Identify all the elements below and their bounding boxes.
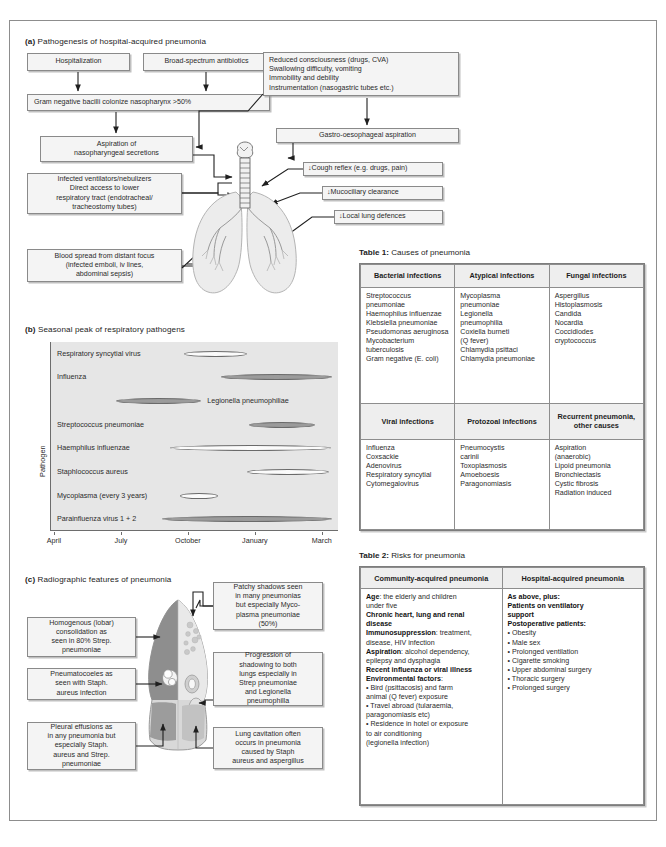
chart-x-tickmark (54, 532, 55, 535)
table1-header-atypical: Atypical infections (455, 265, 549, 288)
table2-community-line: Aspiration: alcohol dependency, (366, 648, 497, 657)
table2-cell-hospital: As above, plus:Patients on ventilatory s… (502, 589, 644, 805)
chart-bar (180, 493, 219, 499)
table1-header-recurrent: Recurrent pneumonia, other causes (549, 404, 643, 440)
table1-body-row-top: Streptococcus pneumoniae Haemophilus inf… (361, 287, 644, 403)
node-aspiration-risk-factors: Reduced consciousness (drugs, CVA) Swall… (263, 52, 459, 96)
panel-b-title: (b) Seasonal peak of respiratory pathoge… (25, 325, 185, 334)
table2-community-line: Recent influenza or viral illness (366, 666, 497, 675)
node-pleural-effusions: Pleural effusions as in any pneumonia bu… (27, 722, 136, 770)
table2-hospital-bullet: • Prolonged surgery (508, 684, 639, 693)
table2-hospital-bullet: • Obesity (508, 629, 639, 638)
table1-cell-protozoal: Pneumocystis carinii Toxoplasmosis Amoeb… (455, 439, 549, 529)
chart-category-label: Staphlococcus aureus (57, 467, 128, 476)
table2-hospital-bullet: • Cigarette smoking (508, 657, 639, 666)
table1-cell-bacterial: Streptococcus pneumoniae Haemophilus inf… (361, 287, 455, 403)
table1-causes-of-pneumonia: Bacterial infections Atypical infections… (359, 263, 645, 531)
chart-x-tick-label: April (32, 536, 76, 545)
table2-header-community: Community-acquired pneumonia (361, 568, 503, 589)
chart-x-tickmark (322, 532, 323, 535)
table1-header-row-top: Bacterial infections Atypical infections… (361, 265, 644, 288)
table2-body-row: Age: the elderly and childrenunder fiveC… (361, 589, 644, 805)
node-progression-shadowing: Progression of shadowing to both lungs e… (213, 652, 323, 706)
table2-community-line: Age: the elderly and children (366, 593, 497, 602)
table1-cell-atypical: Mycoplasma pneumoniae Legionella pneumop… (455, 287, 549, 403)
chart-category-label: Streptococcus pneumoniae (57, 420, 144, 429)
table2-community-line: epilepsy and dysphagia (366, 657, 497, 666)
panel-b-heading: Seasonal peak of respiratory pathogens (38, 325, 185, 334)
table1-header-bacterial: Bacterial infections (361, 265, 455, 288)
table2-community-line: Chronic heart, lung and renal (366, 611, 497, 620)
node-infected-ventilators: Infected ventilators/nebulizers Direct a… (27, 173, 182, 214)
panel-c-title: (c) Radiographic features of pneumonia (25, 575, 171, 584)
table1-caption: Table 1: Causes of pneumonia (359, 248, 470, 257)
chart-category-label: Influenza (57, 372, 86, 381)
node-cough-reflex: ↓Cough reflex (e.g. drugs, pain) (303, 162, 443, 176)
chart-x-tickmark (255, 532, 256, 535)
node-patchy-shadows: Patchy shadows seen in many pneumonias b… (213, 582, 323, 630)
table2-grid: Community-acquired pneumonia Hospital-ac… (360, 567, 644, 805)
table2-community-line: Immunosuppression: treatment, (366, 629, 497, 638)
panel-a-heading: Pathogenesis of hospital-acquired pneumo… (38, 37, 207, 46)
node-gastro-oesophageal-aspiration: Gastro-oesophageal aspiration (276, 128, 459, 143)
table1-cell-recurrent: Aspiration (anaerobic) Lipoid pneumonia … (549, 439, 643, 529)
table2-cell-community: Age: the elderly and childrenunder fiveC… (361, 589, 503, 805)
table2-community-bullet: • Travel abroad (tularaemia, paragonomia… (366, 702, 497, 720)
chart-y-axis-label: Pathogen (38, 445, 47, 477)
table1-caption-text: Causes of pneumonia (391, 248, 470, 257)
chart-category-label: Parainfluenza virus 1 + 2 (57, 514, 136, 523)
panel-c-label: (c) (25, 575, 35, 584)
table2-header-row: Community-acquired pneumonia Hospital-ac… (361, 568, 644, 589)
table2-hospital-bullet: • Male sex (508, 639, 639, 648)
panel-a-label: (a) (25, 37, 35, 46)
table2-hospital-heading: As above, plus: (508, 593, 639, 602)
table2-community-bullet: • Bird (psittacosis) and farm animal (Q … (366, 684, 497, 702)
table2-hospital-heading: support (508, 611, 639, 620)
table1-cell-fungal: Aspergillus Histoplasmosis Candida Nocar… (549, 287, 643, 403)
node-local-lung-defences: ↓Local lung defences (334, 210, 443, 224)
chart-x-tick-label: January (233, 536, 277, 545)
chart-x-tick-label: October (166, 536, 210, 545)
table1-caption-number: Table 1: (359, 248, 389, 257)
chart-category-label: Haemphilus influenzae (57, 443, 130, 452)
table1-header-protozoal: Protozoal infections (455, 404, 549, 440)
panel-a-title: (a) Pathogenesis of hospital-acquired pn… (25, 37, 206, 46)
table2-caption-number: Table 2: (359, 551, 389, 560)
node-pneumatocoeles: Pneumatocoeles as seen with Staph. aureu… (27, 668, 136, 700)
node-hospitalization: Hospitalization (27, 53, 130, 71)
chart-x-tickmark (121, 532, 122, 535)
node-broad-spectrum-antibiotics: Broad-spectrum antibiotics (143, 53, 270, 71)
table2-caption-text: Risks for pneumonia (391, 551, 465, 560)
table1-header-row-bottom: Viral infections Protozoal infections Re… (361, 404, 644, 440)
table2-hospital-heading: Patients on ventilatory (508, 602, 639, 611)
table2-community-bullet: • Residence in hotel or exposure to air … (366, 720, 497, 747)
node-homogenous-consolidation: Homogenous (lobar) consolidation as seen… (27, 617, 136, 657)
node-blood-spread: Blood spread from distant focus (infecte… (27, 249, 182, 282)
chart-x-tick-label: March (300, 536, 344, 545)
table2-community-line: disease, HIV infection (366, 639, 497, 648)
seasonal-chart-plot (50, 342, 338, 531)
node-mucociliary-clearance: ↓Mucociliary clearance (322, 186, 443, 200)
table1-header-fungal: Fungal infections (549, 265, 643, 288)
table2-hospital-bullet: • Thoracic surgery (508, 675, 639, 684)
table2-risks-for-pneumonia: Community-acquired pneumonia Hospital-ac… (359, 566, 645, 806)
table2-hospital-heading: Postoperative patients: (508, 620, 639, 629)
chart-bar (247, 469, 329, 475)
chart-bar (184, 351, 247, 357)
table2-community-line: under five (366, 602, 497, 611)
panel-b-label: (b) (25, 325, 36, 334)
table2-hospital-bullet: • Upper abdominal surgery (508, 666, 639, 675)
table2-caption: Table 2: Risks for pneumonia (359, 551, 465, 560)
table1-header-viral: Viral infections (361, 404, 455, 440)
panel-c-heading: Radiographic features of pneumonia (38, 575, 172, 584)
node-gram-negative-colonization: Gram negative bacilli colonize nasophary… (27, 94, 270, 111)
table2-hospital-bullet: • Prolonged ventilation (508, 648, 639, 657)
chart-bar (249, 422, 315, 428)
table1-grid: Bacterial infections Atypical infections… (360, 264, 644, 530)
chart-category-label: Respiratory syncytial virus (57, 349, 140, 358)
table2-header-hospital: Hospital-acquired pneumonia (502, 568, 644, 589)
chart-category-label: Legionella pneumophiliae (207, 396, 289, 405)
node-aspiration-nasopharyngeal: Aspiration of nasopharyngeal secretions (40, 136, 193, 162)
table2-community-line: disease (366, 620, 497, 629)
node-lung-cavitation: Lung cavitation often occurs in pneumoni… (213, 727, 323, 769)
